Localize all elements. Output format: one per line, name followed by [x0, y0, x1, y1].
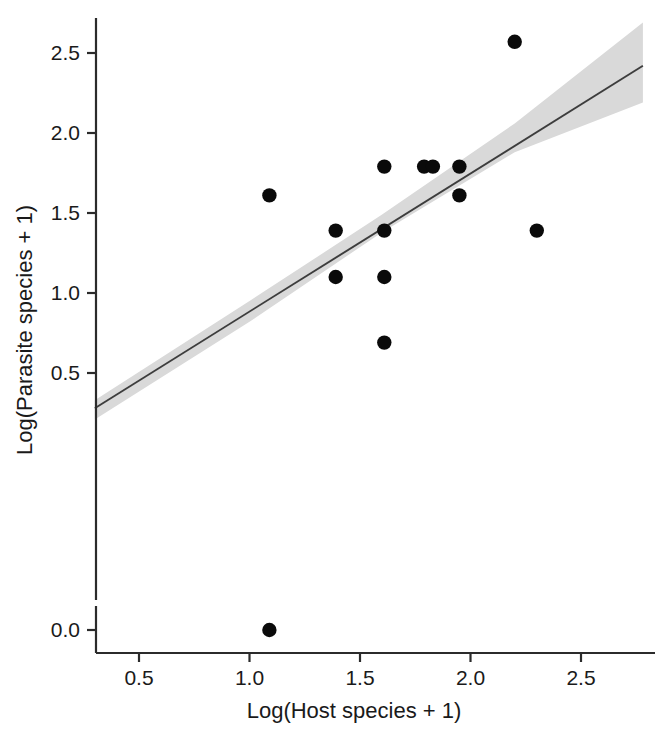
y-tick-label: 2.0 [51, 121, 80, 144]
x-tick-label: 1.0 [235, 666, 264, 689]
confidence-band [95, 23, 643, 420]
y-tick-label: 2.5 [51, 41, 80, 64]
x-tick-label: 2.0 [456, 666, 485, 689]
data-point [329, 270, 343, 284]
data-points [262, 35, 544, 638]
data-point [329, 223, 343, 237]
y-tick-label: 1.0 [51, 281, 80, 304]
data-point [377, 335, 391, 349]
data-point [530, 223, 544, 237]
y-tick-label: 1.5 [51, 201, 80, 224]
scatter-plot-figure: 0.00.51.01.52.02.5 0.51.01.52.02.5 Log(H… [0, 0, 661, 741]
data-point [377, 159, 391, 173]
data-point [377, 223, 391, 237]
data-point [377, 270, 391, 284]
data-point [452, 188, 466, 202]
data-point [426, 159, 440, 173]
regression-line [95, 66, 643, 408]
y-axis-ticks: 0.00.51.01.52.02.5 [51, 41, 96, 641]
data-point [452, 159, 466, 173]
x-axis-title: Log(Host species + 1) [247, 698, 462, 723]
x-tick-label: 0.5 [124, 666, 153, 689]
x-axis-ticks: 0.51.01.52.02.5 [124, 653, 595, 689]
data-point [262, 188, 276, 202]
y-axis-title: Log(Parasite species + 1) [12, 205, 37, 455]
data-point [508, 35, 522, 49]
y-tick-label: 0.0 [51, 618, 80, 641]
plot-canvas: 0.00.51.01.52.02.5 0.51.01.52.02.5 Log(H… [0, 0, 661, 741]
x-tick-label: 1.5 [345, 666, 374, 689]
x-tick-label: 2.5 [566, 666, 595, 689]
data-point [262, 623, 276, 637]
y-tick-label: 0.5 [51, 361, 80, 384]
